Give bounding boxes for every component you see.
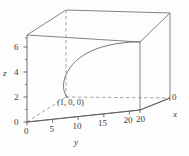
figure-3d-plot: 0 2 4 6 z 0 5 10 15 20 y 20 0 x (1, 0, 0…	[0, 0, 189, 156]
z-axis-label: z	[3, 69, 7, 78]
y-axis-label: y	[74, 138, 78, 147]
z-tick-label-4: 4	[14, 68, 19, 77]
z-tick-label-0: 0	[14, 118, 19, 127]
x-axis-line	[140, 98, 170, 110]
y-tick-label-15: 15	[98, 119, 107, 128]
hidden-edges-group	[27, 10, 170, 122]
x-axis-label: x	[173, 110, 177, 119]
x-tick-label-20: 20	[136, 115, 145, 124]
y-tick-label-20: 20	[124, 116, 133, 125]
y-tick-label-0: 0	[24, 127, 29, 136]
edge-top-front	[27, 35, 140, 42]
edge-top-left-back	[27, 10, 66, 35]
trajectory-curve	[64, 42, 141, 98]
y-tick-label-5: 5	[50, 125, 55, 134]
z-axis-group	[24, 35, 28, 123]
edge-top-back	[66, 10, 170, 13]
z-tick-label-2: 2	[14, 93, 19, 102]
start-point-label: (1, 0, 0)	[57, 98, 84, 107]
z-tick-label-6: 6	[14, 43, 19, 52]
x-axis-group	[140, 98, 170, 113]
y-tick-label-10: 10	[73, 122, 82, 131]
box-edges-group	[27, 10, 170, 122]
edge-top-right-front	[140, 13, 170, 42]
x-tick-label-0: 0	[172, 93, 177, 102]
